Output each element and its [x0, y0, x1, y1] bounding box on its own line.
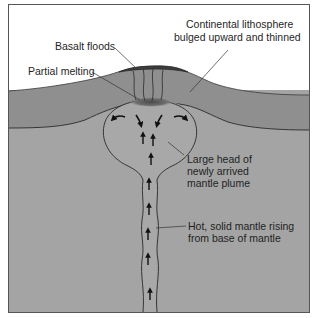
label-plume-head-3: mantle plume: [187, 177, 250, 189]
label-plume-stem-2: from base of mantle: [188, 232, 281, 244]
label-lithosphere-2: bulged upward and thinned: [174, 31, 301, 43]
label-basalt-floods: Basalt floods: [55, 40, 115, 52]
mantle-plume-diagram: Continental lithosphere bulged upward an…: [0, 0, 318, 318]
label-plume-head-1: Large head of: [187, 153, 252, 165]
label-lithosphere-1: Continental lithosphere: [186, 18, 294, 30]
label-partial-melting: Partial melting: [28, 65, 95, 77]
label-plume-stem-1: Hot, solid mantle rising: [188, 220, 294, 232]
label-plume-head-2: newly arrived: [187, 165, 249, 177]
